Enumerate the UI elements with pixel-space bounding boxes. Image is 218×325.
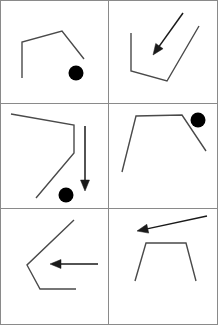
arrow-up-left-head [137, 224, 149, 233]
stimulus-sheet [0, 0, 218, 325]
open-polyline-vee [131, 26, 199, 81]
arrow-left-head [50, 260, 61, 269]
open-polyline-plateau [122, 115, 206, 172]
panel-5-bottom-left [27, 220, 98, 289]
arrow-up-left-shaft [146, 216, 207, 229]
panel-shapes-layer [0, 0, 218, 325]
arrow-down-left-head [153, 43, 163, 55]
target-dot [191, 113, 206, 128]
target-dot [69, 66, 84, 81]
open-polyline-zigzag [11, 114, 74, 198]
sheet-border [1, 1, 218, 325]
open-polyline-trapezoid [135, 243, 196, 281]
panel-6-bottom-right [135, 216, 207, 281]
panel-1-top-left [22, 31, 84, 81]
arrow-left [50, 260, 98, 269]
panel-2-top-right [131, 13, 199, 81]
arrow-up-left [137, 216, 207, 233]
panel-grid-dividers [0, 0, 218, 325]
arrow-down-left-shaft [158, 13, 183, 48]
target-dot [59, 188, 74, 203]
arrow-down [81, 126, 90, 191]
panel-3-middle-left [11, 114, 90, 203]
panel-4-middle-right [122, 113, 206, 173]
arrow-down-head [81, 180, 90, 191]
open-polyline-peak [22, 31, 84, 78]
arrow-down-left [153, 13, 183, 55]
open-polyline-arrowhead-outline [27, 220, 76, 289]
